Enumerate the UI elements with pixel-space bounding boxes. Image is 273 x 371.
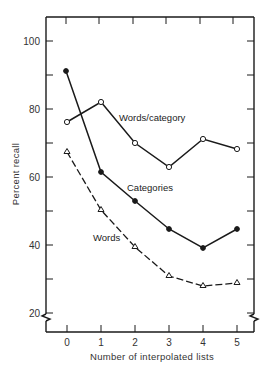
point-categories-0	[64, 69, 69, 74]
y-tick-40: 40	[29, 240, 41, 251]
point-words-5	[234, 280, 240, 285]
point-words-category-5	[234, 146, 239, 151]
point-words-category-2	[132, 140, 137, 145]
x-tick-1: 1	[98, 337, 104, 348]
point-words-3	[166, 273, 172, 278]
x-tick-5: 5	[234, 337, 240, 348]
series-words-per-category	[64, 99, 239, 169]
point-words-category-3	[166, 164, 171, 169]
x-tick-0: 0	[64, 337, 70, 348]
y-tick-20: 20	[29, 308, 41, 319]
point-words-category-4	[200, 136, 205, 141]
x-tick-2: 2	[132, 337, 138, 348]
recall-chart: 100 80 60 40 20 0 1 2 3 4 5 Number of in…	[0, 0, 273, 371]
x-ticks-bottom	[67, 325, 237, 332]
x-tick-4: 4	[200, 337, 206, 348]
point-categories-5	[235, 227, 240, 232]
y-tick-60: 60	[29, 172, 41, 183]
plot-frame	[42, 17, 258, 332]
point-categories-4	[201, 246, 206, 251]
point-words-category-0	[64, 119, 69, 124]
y-tick-80: 80	[29, 104, 41, 115]
y-axis-label: Percent recall	[10, 143, 21, 205]
y-ticks-right	[247, 41, 254, 313]
label-words: Words	[93, 232, 121, 243]
x-tick-3: 3	[166, 337, 172, 348]
point-categories-3	[167, 227, 172, 232]
label-categories: Categories	[127, 182, 173, 193]
series-categories	[64, 69, 240, 251]
label-words-category: Words/category	[119, 112, 186, 123]
point-categories-2	[133, 199, 138, 204]
point-words-0	[64, 149, 70, 154]
x-axis-label: Number of interpolated lists	[90, 351, 214, 362]
series-words	[64, 149, 240, 288]
y-tick-100: 100	[23, 36, 40, 47]
point-words-category-1	[98, 99, 103, 104]
point-categories-1	[99, 170, 104, 175]
x-ticks-top	[66, 17, 233, 24]
y-ticks-left	[46, 41, 53, 313]
